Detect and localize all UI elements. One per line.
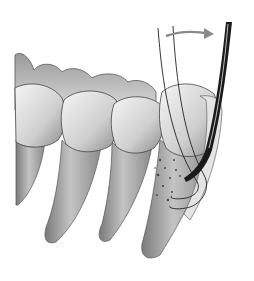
root-2 (45, 140, 102, 243)
root-1 (16, 140, 45, 205)
crown-3 (111, 97, 164, 153)
dental-illustration (0, 0, 254, 281)
root-3 (99, 142, 152, 241)
crown-1 (15, 84, 65, 147)
crown-2 (61, 91, 119, 152)
